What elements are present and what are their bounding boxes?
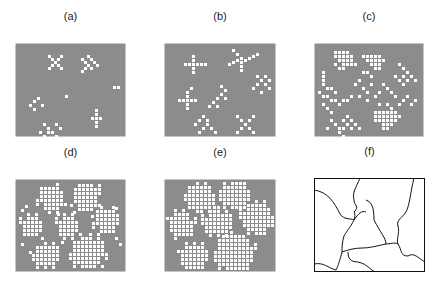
panel-a-graphic <box>15 43 126 137</box>
panel-d-graphic <box>15 179 126 272</box>
panel-b <box>164 43 276 137</box>
panel-d <box>15 179 126 272</box>
panel-e <box>164 179 276 272</box>
panel-label-f: (f) <box>350 145 390 157</box>
panel-label-c: (c) <box>349 10 389 22</box>
panel-label-e: (e) <box>200 146 240 158</box>
panel-f <box>314 178 425 272</box>
panel-label-d: (d) <box>51 146 91 158</box>
panel-f-graphic <box>314 178 425 272</box>
panel-label-b: (b) <box>200 10 240 22</box>
panel-e-graphic <box>164 179 276 272</box>
panel-c-graphic <box>314 43 424 137</box>
panel-label-a: (a) <box>51 10 91 22</box>
panel-c <box>314 43 424 137</box>
panel-b-graphic <box>164 43 276 137</box>
panel-a <box>15 43 126 137</box>
